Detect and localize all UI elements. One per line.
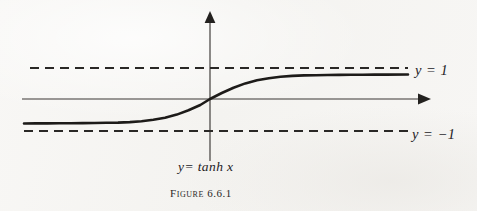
function-label: y= tanh x	[178, 160, 233, 174]
figure-caption: Figure 6.6.1	[170, 188, 232, 199]
lower-asymptote-label: y = −1	[412, 127, 456, 142]
x-axis-arrowhead-icon	[418, 94, 431, 105]
upper-asymptote-label: y = 1	[415, 63, 448, 78]
y-axis	[205, 11, 216, 161]
x-axis	[22, 94, 431, 105]
figure-container: y = 1 y = −1 y= tanh x Figure 6.6.1	[0, 0, 477, 211]
tanh-plot	[0, 0, 477, 211]
y-axis-arrowhead-icon	[205, 11, 216, 23]
